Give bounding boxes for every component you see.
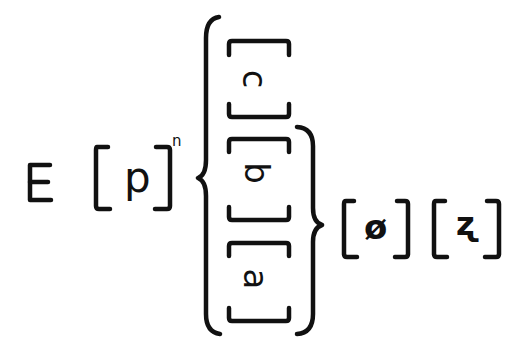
phi-left-bracket <box>344 201 357 257</box>
stack-c-top-bracket <box>229 41 289 55</box>
stack-c-bottom-bracket <box>229 104 289 117</box>
stack-b-bottom-bracket <box>229 207 289 220</box>
phi-right-bracket <box>395 201 408 257</box>
phi-symbol: ø <box>364 210 387 244</box>
base-letter: p <box>124 157 151 199</box>
left-curly-brace <box>198 17 220 334</box>
z-right-bracket <box>485 201 499 257</box>
p-left-bracket <box>96 147 110 209</box>
p-right-bracket <box>155 147 170 209</box>
stack-a-top-bracket <box>229 243 289 256</box>
z-left-bracket <box>434 201 447 257</box>
z-symbol: ʐ <box>456 208 478 240</box>
e-symbol-strokes <box>30 165 51 200</box>
notation-diagram: p n c b a ø ʐ <box>0 0 527 353</box>
stack-letter-b: b <box>246 156 268 190</box>
right-curly-brace <box>297 127 322 334</box>
stack-letter-a: a <box>246 262 267 296</box>
stack-b-top-bracket <box>229 139 289 152</box>
stack-a-bottom-bracket <box>229 308 289 321</box>
superscript-n: n <box>172 134 182 149</box>
stack-letter-c: c <box>246 62 265 96</box>
